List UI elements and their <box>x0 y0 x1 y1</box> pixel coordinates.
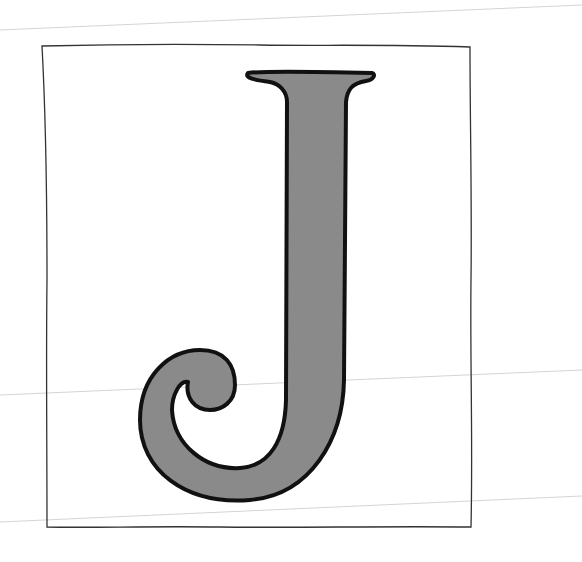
letter-j <box>140 72 374 501</box>
frame <box>42 44 472 527</box>
letter-j-illustration <box>0 0 582 562</box>
